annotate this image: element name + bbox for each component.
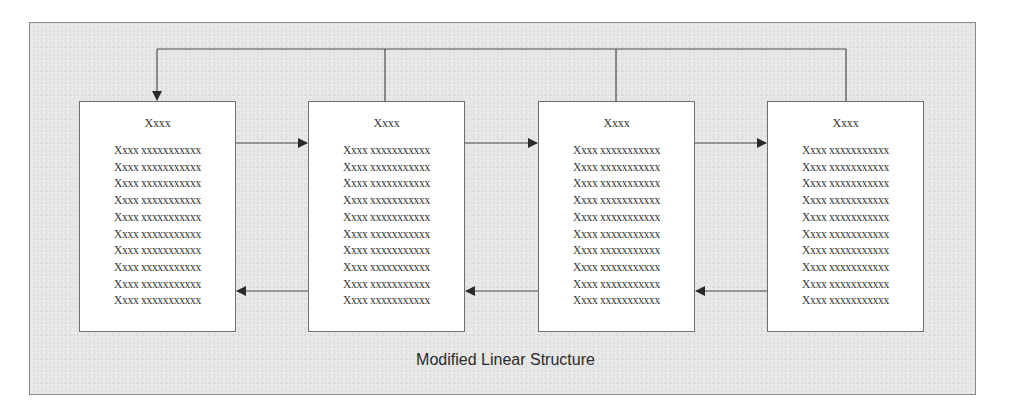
node-line: Xxxx xxxxxxxxxxx [539, 209, 694, 226]
node-line: Xxxx xxxxxxxxxxx [309, 242, 464, 259]
node-line: Xxxx xxxxxxxxxxx [80, 142, 235, 159]
node-line: Xxxx xxxxxxxxxxx [80, 209, 235, 226]
node-line: Xxxx xxxxxxxxxxx [768, 292, 923, 309]
node-title: Xxxx [309, 116, 464, 131]
node-line: Xxxx xxxxxxxxxxx [539, 276, 694, 293]
node-line: Xxxx xxxxxxxxxxx [539, 242, 694, 259]
node-line: Xxxx xxxxxxxxxxx [80, 242, 235, 259]
node-line: Xxxx xxxxxxxxxxx [80, 175, 235, 192]
node-line: Xxxx xxxxxxxxxxx [309, 209, 464, 226]
node-line: Xxxx xxxxxxxxxxx [309, 142, 464, 159]
diagram-caption: Modified Linear Structure [0, 351, 1011, 369]
node-title: Xxxx [768, 116, 923, 131]
node-line: Xxxx xxxxxxxxxxx [80, 276, 235, 293]
node-4: Xxxx Xxxx xxxxxxxxxxx Xxxx xxxxxxxxxxx X… [767, 101, 924, 332]
node-lines: Xxxx xxxxxxxxxxx Xxxx xxxxxxxxxxx Xxxx x… [80, 142, 235, 309]
node-lines: Xxxx xxxxxxxxxxx Xxxx xxxxxxxxxxx Xxxx x… [309, 142, 464, 309]
node-lines: Xxxx xxxxxxxxxxx Xxxx xxxxxxxxxxx Xxxx x… [539, 142, 694, 309]
node-line: Xxxx xxxxxxxxxxx [309, 192, 464, 209]
node-line: Xxxx xxxxxxxxxxx [768, 276, 923, 293]
node-line: Xxxx xxxxxxxxxxx [539, 259, 694, 276]
node-1: Xxxx Xxxx xxxxxxxxxxx Xxxx xxxxxxxxxxx X… [79, 101, 236, 332]
node-line: Xxxx xxxxxxxxxxx [309, 175, 464, 192]
node-lines: Xxxx xxxxxxxxxxx Xxxx xxxxxxxxxxx Xxxx x… [768, 142, 923, 309]
node-2: Xxxx Xxxx xxxxxxxxxxx Xxxx xxxxxxxxxxx X… [308, 101, 465, 332]
node-line: Xxxx xxxxxxxxxxx [539, 159, 694, 176]
node-line: Xxxx xxxxxxxxxxx [539, 226, 694, 243]
node-line: Xxxx xxxxxxxxxxx [80, 292, 235, 309]
node-3: Xxxx Xxxx xxxxxxxxxxx Xxxx xxxxxxxxxxx X… [538, 101, 695, 332]
node-line: Xxxx xxxxxxxxxxx [768, 259, 923, 276]
node-title: Xxxx [80, 116, 235, 131]
node-title: Xxxx [539, 116, 694, 131]
node-line: Xxxx xxxxxxxxxxx [768, 242, 923, 259]
node-line: Xxxx xxxxxxxxxxx [309, 159, 464, 176]
node-line: Xxxx xxxxxxxxxxx [539, 175, 694, 192]
node-line: Xxxx xxxxxxxxxxx [539, 292, 694, 309]
node-line: Xxxx xxxxxxxxxxx [80, 226, 235, 243]
node-line: Xxxx xxxxxxxxxxx [309, 292, 464, 309]
node-line: Xxxx xxxxxxxxxxx [309, 226, 464, 243]
node-line: Xxxx xxxxxxxxxxx [768, 226, 923, 243]
node-line: Xxxx xxxxxxxxxxx [768, 175, 923, 192]
node-line: Xxxx xxxxxxxxxxx [768, 192, 923, 209]
node-line: Xxxx xxxxxxxxxxx [309, 276, 464, 293]
node-line: Xxxx xxxxxxxxxxx [539, 142, 694, 159]
node-line: Xxxx xxxxxxxxxxx [80, 259, 235, 276]
node-line: Xxxx xxxxxxxxxxx [539, 192, 694, 209]
node-line: Xxxx xxxxxxxxxxx [768, 159, 923, 176]
node-line: Xxxx xxxxxxxxxxx [80, 192, 235, 209]
node-line: Xxxx xxxxxxxxxxx [80, 159, 235, 176]
node-line: Xxxx xxxxxxxxxxx [309, 259, 464, 276]
node-line: Xxxx xxxxxxxxxxx [768, 209, 923, 226]
return-bus [157, 49, 846, 101]
node-line: Xxxx xxxxxxxxxxx [768, 142, 923, 159]
